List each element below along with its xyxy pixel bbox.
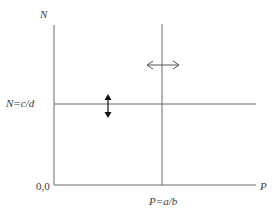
n-isocline-label: N=c/d <box>6 98 34 109</box>
p-isocline-label: P=a/b <box>149 196 177 207</box>
horizontal-double-arrow-icon <box>147 61 179 69</box>
vertical-double-arrow-icon <box>105 94 112 118</box>
origin-label: 0,0 <box>36 181 50 192</box>
y-axis-label: N <box>40 9 47 20</box>
x-axis-label: P <box>260 181 267 192</box>
phase-diagram: N N=c/d 0,0 P P=a/b <box>0 0 280 213</box>
